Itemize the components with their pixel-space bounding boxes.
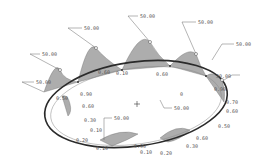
dim-label[interactable]: 0.10 (96, 145, 108, 151)
dim-label[interactable]: 0 (180, 91, 183, 97)
dim-label[interactable]: 0.60 (196, 135, 208, 141)
dim-label[interactable]: 0.60 (226, 108, 238, 114)
dim-label[interactable]: 0.60 (98, 69, 110, 75)
sweep-diagram: 50.00 50.00 50.00 50.00 50.00 50.00 50.0… (0, 0, 256, 168)
dim-label[interactable]: 50.00 (42, 51, 57, 57)
dim-label[interactable]: 0.30 (84, 117, 96, 123)
dim-label[interactable]: 0.60 (156, 71, 168, 77)
origin-icon (134, 101, 140, 107)
dim-label[interactable]: 0.90 (214, 86, 226, 92)
dim-label[interactable]: 50.00 (140, 13, 155, 19)
bump-3 (122, 39, 170, 70)
dim-label[interactable]: 0.10 (90, 127, 102, 133)
dim-label[interactable]: 0.90 (134, 143, 146, 149)
bump-7 (100, 132, 138, 146)
dim-label[interactable]: 0.10 (140, 149, 152, 155)
dim-label[interactable]: 0.60 (82, 103, 94, 109)
dim-label[interactable]: 50.00 (36, 79, 51, 85)
dim-label[interactable]: 0.50 (218, 123, 230, 129)
dim-label[interactable]: 50.00 (84, 25, 99, 31)
dim-label[interactable]: 0.70 (226, 99, 238, 105)
dim-label[interactable]: 0.10 (116, 70, 128, 76)
bump-8 (160, 128, 190, 142)
dim-label[interactable]: 0.30 (186, 143, 198, 149)
dim-label[interactable]: 50.00 (114, 115, 129, 121)
dim-label[interactable]: 50.00 (198, 19, 213, 25)
dim-label[interactable]: 0.90 (80, 91, 92, 97)
dim-label[interactable]: 50.00 (174, 105, 189, 111)
dim-label[interactable]: 0.20 (160, 150, 172, 156)
dim-label[interactable]: 0.50 (56, 95, 68, 101)
profile-shading (44, 39, 225, 146)
dim-label[interactable]: 50.00 (216, 73, 231, 79)
dim-label[interactable]: 50.00 (236, 41, 251, 47)
dim-label[interactable]: 0.20 (76, 137, 88, 143)
